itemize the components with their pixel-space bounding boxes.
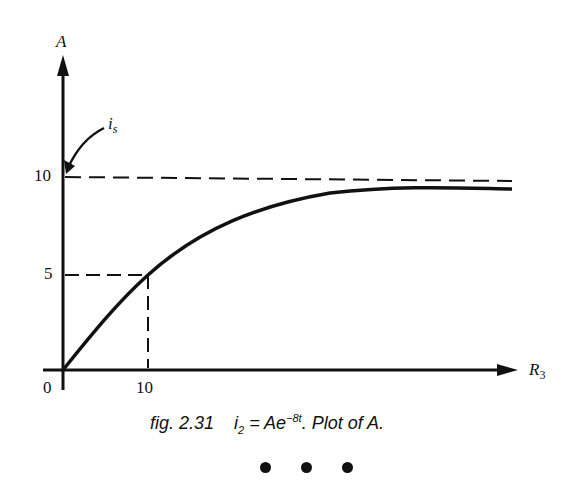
annotation-sub: s (113, 122, 118, 136)
origin-label: 0 (43, 378, 52, 398)
bullet-icon (301, 462, 312, 473)
figure-caption: fig. 2.31 i2 = Ae−8t. Plot of A. (150, 412, 384, 436)
x-axis-label-main: R (529, 360, 539, 379)
annotation-arrow (68, 128, 104, 168)
caption-eq-sup: −8t (286, 412, 302, 424)
y-tick-5: 5 (44, 264, 53, 284)
y-axis-arrow-icon (57, 55, 69, 76)
x-tick-10: 10 (136, 378, 153, 398)
y-tick-10: 10 (34, 166, 51, 186)
bullet-icon (342, 462, 353, 473)
y-axis-label: A (56, 32, 66, 52)
bullet-icon (260, 462, 271, 473)
caption-eq-end: . Plot of A. (302, 413, 384, 433)
x-axis-label: R3 (529, 360, 545, 383)
annotation-is: is (108, 114, 117, 137)
curve-A (63, 188, 512, 370)
x-axis-arrow-icon (497, 364, 518, 376)
asymptote-line (65, 177, 512, 181)
caption-fig: fig. 2.31 (150, 413, 214, 433)
caption-eq-mid: = Ae (244, 413, 286, 433)
x-axis-label-sub: 3 (539, 368, 545, 382)
section-separator (260, 462, 353, 473)
